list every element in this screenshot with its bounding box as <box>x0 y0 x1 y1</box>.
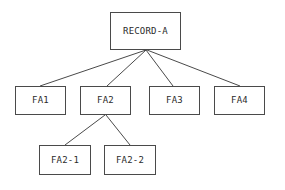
node-box-fa1[interactable]: FA1 <box>15 86 66 115</box>
node-label-fa2-1: FA2-1 <box>51 156 79 165</box>
node-label-fa2: FA2 <box>97 96 114 105</box>
node-box-fa2-1[interactable]: FA2-1 <box>39 145 91 175</box>
node-label-fa4: FA4 <box>231 96 248 105</box>
node-box-fa4[interactable]: FA4 <box>214 86 265 115</box>
connector-record-a-to-fa2 <box>107 50 146 86</box>
node-box-fa2[interactable]: FA2 <box>80 86 131 115</box>
node-label-fa3: FA3 <box>166 96 183 105</box>
node-label-record-a: RECORD-A <box>123 27 168 36</box>
node-label-fa2-2: FA2-2 <box>116 156 144 165</box>
node-box-fa3[interactable]: FA3 <box>149 86 200 115</box>
diagram-canvas: RECORD-AFA1FA2FA3FA4FA2-1FA2-2 <box>0 0 285 190</box>
node-label-fa1: FA1 <box>32 96 49 105</box>
connector-record-a-to-fa1 <box>40 50 146 86</box>
connector-record-a-to-fa4 <box>147 50 240 86</box>
connector-fa2-to-fa2-1 <box>65 115 105 145</box>
connector-record-a-to-fa3 <box>146 50 173 86</box>
node-box-record-a[interactable]: RECORD-A <box>110 12 181 50</box>
connector-fa2-to-fa2-2 <box>106 115 130 145</box>
node-box-fa2-2[interactable]: FA2-2 <box>104 145 156 175</box>
